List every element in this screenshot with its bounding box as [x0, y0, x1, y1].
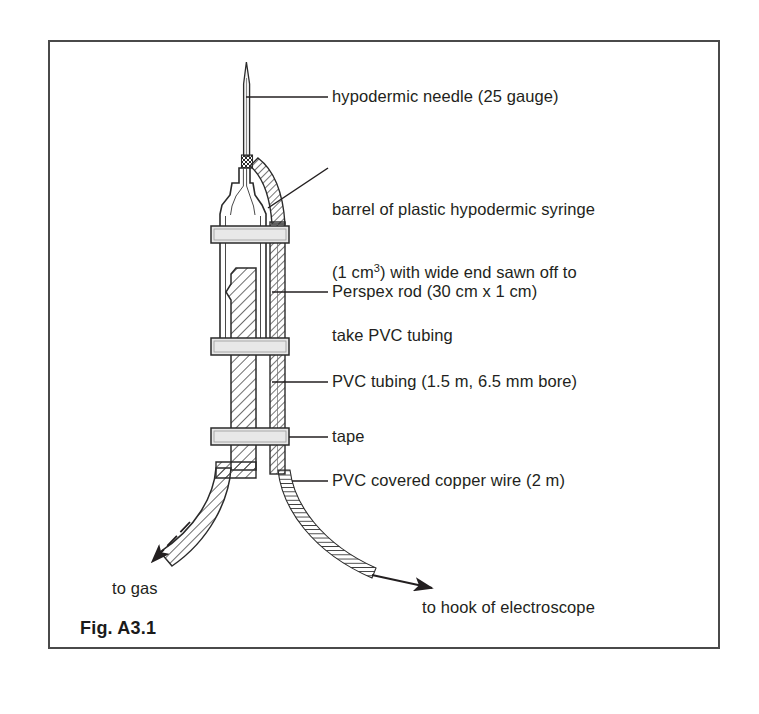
label-tape: tape [332, 426, 365, 447]
label-volume-suffix: ) with wide end sawn off to [380, 263, 577, 281]
figure-caption: Fig. A3.1 [80, 618, 156, 639]
label-syringe-barrel-line1: barrel of plastic hypodermic syringe [332, 199, 595, 220]
hypodermic-needle [244, 62, 250, 156]
label-syringe-barrel-line3: take PVC tubing [332, 325, 595, 346]
label-hypodermic-needle: hypodermic needle (25 gauge) [332, 86, 559, 107]
label-syringe-barrel-line2: (1 cm3) with wide end sawn off to [332, 262, 595, 283]
label-to-hook-of-electroscope: to hook of electroscope [422, 597, 595, 618]
electroscope-arrow [372, 575, 432, 588]
label-to-gas: to gas [112, 578, 158, 599]
figure-page: hypodermic needle (25 gauge) barrel of p… [0, 0, 759, 714]
label-syringe-barrel: barrel of plastic hypodermic syringe (1 … [332, 157, 595, 388]
tape-band-lower [211, 428, 289, 445]
pvc-tubing-lower [160, 462, 256, 566]
label-volume-prefix: (1 cm [332, 263, 374, 281]
label-copper-wire: PVC covered copper wire (2 m) [332, 470, 565, 491]
tape-band-middle [211, 338, 289, 355]
label-perspex-rod: Perspex rod (30 cm x 1 cm) [332, 281, 537, 302]
label-pvc-tubing: PVC tubing (1.5 m, 6.5 mm bore) [332, 371, 577, 392]
tape-band-upper [211, 226, 289, 243]
